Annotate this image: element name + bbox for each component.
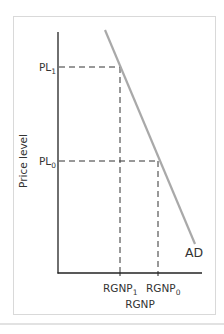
pl0-label: PL0 [39, 155, 56, 170]
ad-diagram: PL1 PL0 RGNP1 RGNP0 RGNP Price level AD [0, 0, 224, 334]
rgnp1-label: RGNP1 [103, 282, 138, 297]
guide-lines [59, 67, 158, 273]
pl1-label: PL1 [39, 61, 56, 76]
x-axis-title: RGNP [125, 298, 155, 310]
rgnp0-label: RGNP0 [146, 282, 181, 297]
ad-label: AD [185, 245, 203, 260]
ad-curve [105, 30, 195, 244]
y-axis-title: Price level [17, 134, 29, 188]
